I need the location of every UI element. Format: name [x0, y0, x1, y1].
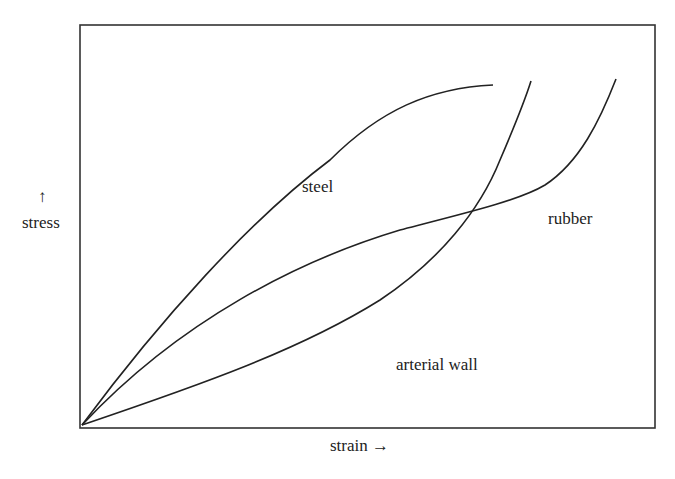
arterial-wall-label: arterial wall: [396, 356, 478, 373]
stress-arrow-icon: ↑: [38, 188, 47, 205]
steel-curve: [82, 85, 493, 425]
steel-label: steel: [302, 178, 333, 195]
stress-strain-plot: [0, 0, 675, 479]
rubber-label: rubber: [548, 210, 592, 227]
y-axis-label: stress: [22, 214, 60, 231]
rubber-curve: [82, 79, 616, 425]
x-axis-label: strain →: [330, 437, 389, 454]
